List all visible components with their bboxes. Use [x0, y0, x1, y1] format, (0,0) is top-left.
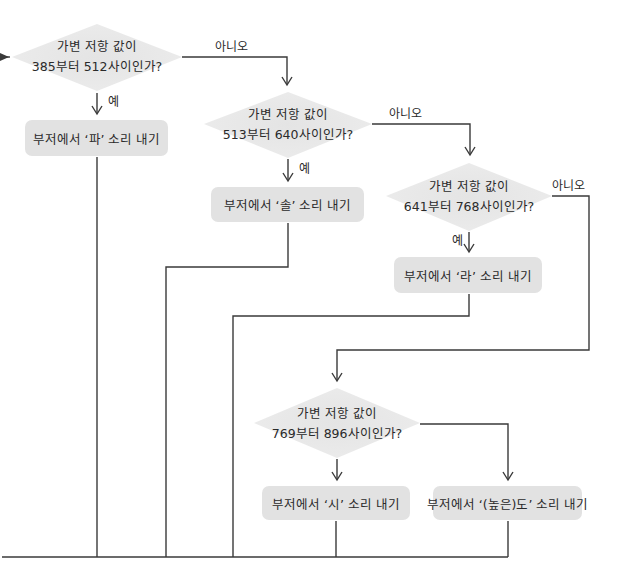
action-box-la: 부저에서 ‘라’ 소리 내기: [394, 257, 542, 293]
decision-1-yes-label: 예: [108, 95, 119, 109]
decision-2-yes-label: 예: [299, 162, 310, 176]
decision-1-text: 가변 저항 값이 385부터 512사이인가?: [32, 37, 162, 77]
decision-1-no-label: 아니오: [215, 40, 248, 54]
action-box-fa: 부저에서 ‘파’ 소리 내기: [25, 120, 168, 156]
connector-d2-no: [372, 124, 470, 154]
decision-2-line1: 가변 저항 값이: [223, 105, 353, 125]
decision-3-text: 가변 저항 값이 641부터 768사이인가?: [404, 177, 534, 217]
decision-1-line2: 385부터 512사이인가?: [32, 57, 162, 77]
connector-d4-no: [420, 424, 508, 479]
decision-2-text: 가변 저항 값이 513부터 640사이인가?: [223, 105, 353, 145]
decision-3-line1: 가변 저항 값이: [404, 177, 534, 197]
decision-4-text: 가변 저항 값이 769부터 896사이인가?: [272, 404, 402, 444]
decision-3-no-label: 아니오: [552, 179, 585, 193]
connector-d1-no: [182, 57, 287, 84]
decision-4-line2: 769부터 896사이인가?: [272, 424, 402, 444]
entry-arrowhead-icon: [0, 53, 9, 61]
action-box-sol: 부저에서 ‘솔’ 소리 내기: [211, 187, 364, 222]
decision-3-line2: 641부터 768사이인가?: [404, 197, 534, 217]
decision-3-yes-label: 예: [452, 234, 463, 248]
action-box-high-do: 부저에서 ‘(높은)도’ 소리 내기: [433, 486, 582, 520]
decision-2-line2: 513부터 640사이인가?: [223, 125, 353, 145]
action-box-si: 부저에서 ‘시’ 소리 내기: [262, 486, 410, 520]
decision-1-line1: 가변 저항 값이: [32, 37, 162, 57]
decision-4-line1: 가변 저항 값이: [272, 404, 402, 424]
decision-2-no-label: 아니오: [389, 107, 422, 121]
